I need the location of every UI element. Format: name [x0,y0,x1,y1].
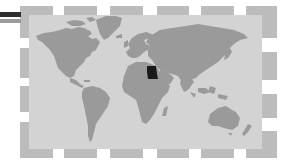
continents [0,0,291,165]
central-america [70,78,84,88]
arctic-islands [66,20,86,26]
south-america [82,86,110,142]
madagascar [162,106,168,116]
new-zealand [242,124,252,136]
australia [208,106,240,130]
north-america [36,27,100,78]
world-map-graphic: World map Egypt [0,0,291,165]
